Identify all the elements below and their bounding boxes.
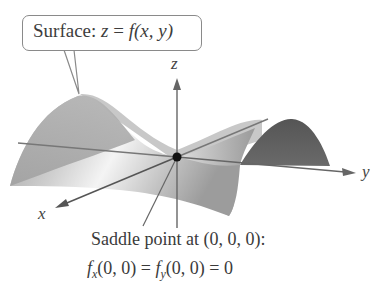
fx-args: (0, 0) = xyxy=(97,258,155,278)
saddle-surface-figure: Surface: z = f(x, y) z y x Saddle point … xyxy=(0,0,392,303)
fy-args: (0, 0) = 0 xyxy=(166,258,233,278)
y-axis-arrow-icon xyxy=(342,168,356,176)
y-axis-label: y xyxy=(362,162,370,182)
x-axis-label: x xyxy=(38,204,46,224)
z-axis-arrow-icon xyxy=(173,78,181,90)
callout-args: (x, y) xyxy=(134,20,173,41)
x-axis-arrow-icon xyxy=(55,199,69,208)
saddle-caption-line2: fx(0, 0) = fy(0, 0) = 0 xyxy=(87,258,233,282)
callout-pointer xyxy=(64,50,79,94)
saddle-point xyxy=(173,153,182,162)
callout-equals: = xyxy=(108,20,128,41)
saddle-caption-line1: Saddle point at (0, 0, 0): xyxy=(91,229,265,250)
surface-callout-label: Surface: z = f(x, y) xyxy=(33,20,173,42)
z-axis-label: z xyxy=(171,54,178,74)
callout-prefix: Surface: xyxy=(33,20,101,41)
